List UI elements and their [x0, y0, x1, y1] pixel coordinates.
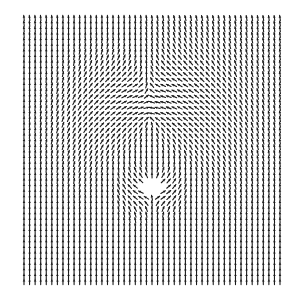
arrow-head-icon	[56, 257, 59, 259]
arrow-head-icon	[45, 43, 48, 45]
arrow-head-icon	[162, 223, 165, 225]
arrow-head-icon	[245, 279, 248, 281]
arrow-head-icon	[167, 223, 170, 225]
arrow-head-icon	[190, 251, 193, 253]
arrow-head-icon	[140, 268, 143, 270]
arrow-head-icon	[256, 234, 259, 236]
arrow-head-icon	[39, 218, 42, 220]
arrow-head-icon	[95, 234, 98, 236]
arrow-head-icon	[62, 229, 65, 231]
arrow-head-icon	[89, 268, 92, 270]
arrow-head-icon	[23, 190, 26, 192]
arrow-head-icon	[273, 251, 276, 253]
arrow-head-icon	[73, 234, 76, 236]
arrow-head-icon	[162, 234, 165, 236]
vector-field-plot	[0, 0, 300, 299]
arrow-head-icon	[39, 27, 42, 29]
arrow-head-icon	[245, 263, 248, 265]
arrow-head-icon	[78, 279, 81, 281]
arrow-head-icon	[245, 246, 248, 248]
arrow-head-icon	[73, 21, 76, 23]
arrow-head-icon	[156, 268, 159, 270]
arrow-head-icon	[117, 167, 120, 169]
arrow-head-icon	[28, 139, 31, 141]
arrow-head-icon	[256, 251, 259, 253]
arrow-head-icon	[156, 161, 159, 163]
arrow-head-icon	[51, 27, 54, 29]
arrow-head-icon	[279, 167, 282, 169]
arrow-head-icon	[134, 15, 137, 17]
arrow-head-icon	[145, 55, 148, 57]
arrow-head-icon	[206, 212, 209, 214]
arrow-head-icon	[262, 263, 265, 265]
arrow-head-icon	[73, 279, 76, 281]
arrow-head-icon	[34, 201, 37, 203]
arrow-head-icon	[89, 27, 92, 29]
arrow-head-icon	[23, 274, 26, 276]
arrow-head-icon	[34, 173, 37, 175]
arrow-head-icon	[173, 257, 176, 259]
arrow-head-icon	[67, 223, 70, 225]
arrow-head-icon	[229, 274, 232, 276]
arrow-head-icon	[245, 251, 248, 253]
arrow-head-icon	[217, 246, 220, 248]
arrow-head-icon	[179, 246, 182, 248]
arrow-head-icon	[34, 88, 37, 90]
arrow-head-icon	[34, 161, 37, 163]
arrow-head-icon	[156, 257, 159, 259]
arrow-head-icon	[151, 167, 154, 169]
arrow-head-icon	[123, 251, 126, 253]
arrow-head-icon	[112, 257, 115, 259]
arrow-head-icon	[123, 223, 126, 225]
arrow-head-icon	[234, 251, 237, 253]
arrow-head-icon	[217, 263, 220, 265]
arrow-head-icon	[78, 263, 81, 265]
arrow-head-icon	[23, 218, 26, 220]
arrow-head-icon	[45, 66, 48, 68]
arrow-head-icon	[279, 173, 282, 175]
arrow-head-icon	[28, 218, 31, 220]
arrow-head-icon	[78, 229, 81, 231]
arrow-head-icon	[23, 43, 26, 45]
arrow-head-icon	[56, 229, 59, 231]
arrow-head-icon	[34, 55, 37, 57]
arrow-head-icon	[251, 218, 254, 220]
arrow-head-icon	[229, 251, 232, 253]
arrow-head-icon	[73, 251, 76, 253]
arrow-head-icon	[51, 206, 54, 208]
arrow-head-icon	[90, 218, 93, 220]
arrow-head-icon	[23, 201, 26, 203]
arrow-head-icon	[28, 279, 31, 281]
arrow-head-icon	[45, 167, 48, 169]
arrow-head-icon	[195, 268, 198, 270]
arrow-head-icon	[34, 223, 37, 225]
arrow-head-icon	[23, 94, 26, 96]
arrow-head-icon	[123, 268, 126, 270]
arrow-head-icon	[84, 234, 87, 236]
arrow-head-icon	[256, 263, 259, 265]
arrow-head-icon	[140, 223, 143, 225]
arrow-head-icon	[56, 55, 59, 57]
arrow-head-icon	[78, 32, 81, 34]
arrow-head-icon	[73, 268, 76, 270]
arrow-head-icon	[62, 43, 65, 45]
arrow-head-icon	[245, 240, 248, 242]
arrow-head-icon	[28, 100, 31, 102]
arrow-head-icon	[195, 279, 198, 281]
arrow-head-icon	[62, 251, 65, 253]
arrow-head-icon	[145, 246, 148, 248]
arrow-head-icon	[190, 263, 193, 265]
arrow-head-icon	[151, 223, 154, 225]
arrow-head-icon	[39, 60, 42, 62]
arrow-head-icon	[23, 15, 26, 17]
arrow-head-icon	[62, 268, 65, 270]
arrow-head-icon	[45, 173, 48, 175]
arrow-head-icon	[56, 218, 59, 220]
arrow-head-icon	[101, 212, 104, 214]
arrow-head-icon	[212, 274, 215, 276]
arrow-head-icon	[279, 274, 282, 276]
arrow-head-icon	[45, 251, 48, 253]
arrow-head-icon	[117, 21, 120, 23]
arrow-head-icon	[223, 218, 226, 220]
arrow-head-icon	[51, 190, 54, 192]
